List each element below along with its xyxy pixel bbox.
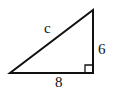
vertical-leg-label: 6 (98, 41, 106, 57)
right-angle-marker (85, 65, 93, 73)
horizontal-leg-label: 8 (55, 74, 63, 90)
right-triangle-diagram: c 6 8 (0, 0, 113, 93)
hypotenuse-label: c (44, 20, 51, 36)
triangle-outline (10, 10, 93, 73)
